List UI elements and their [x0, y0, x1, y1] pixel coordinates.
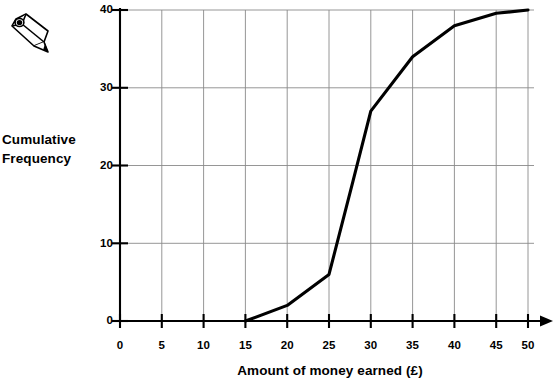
x-axis-arrowhead [540, 316, 553, 327]
cumulative-frequency-chart: Cumulative Frequency [0, 0, 558, 386]
x-tick-label-10: 10 [189, 339, 219, 351]
x-tick-label-45: 45 [481, 339, 511, 351]
x-tick-label-30: 30 [356, 339, 386, 351]
x-tick-label-20: 20 [272, 339, 302, 351]
y-tick-label-0: 0 [83, 314, 113, 326]
x-tick-label-0: 0 [105, 339, 135, 351]
y-tick-label-20: 20 [83, 159, 113, 171]
pencil-icon [4, 8, 66, 56]
y-axis-title-line-1: Cumulative [2, 130, 98, 149]
x-axis-title: Amount of money earned (£) [120, 363, 540, 378]
x-tick-label-35: 35 [398, 339, 428, 351]
y-tick-label-10: 10 [83, 237, 113, 249]
x-tick-label-15: 15 [230, 339, 260, 351]
plot-area [0, 0, 558, 386]
y-tick-label-30: 30 [83, 81, 113, 93]
x-tick-label-25: 25 [314, 339, 344, 351]
x-tick-label-5: 5 [147, 339, 177, 351]
y-tick-label-40: 40 [83, 3, 113, 15]
x-tick-label-40: 40 [439, 339, 469, 351]
x-tick-label-50: 50 [513, 339, 543, 351]
horizontal-gridlines [120, 10, 534, 243]
